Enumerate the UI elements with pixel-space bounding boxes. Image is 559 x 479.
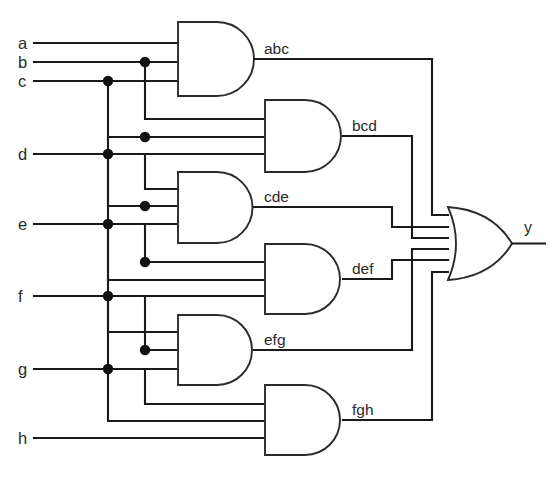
wire-abc-to-or	[432, 59, 448, 215]
and-gate-efg[interactable]: efg	[145, 315, 412, 385]
input-label-d: d	[18, 145, 27, 163]
input-labels: a b c d e f g h	[18, 34, 28, 447]
wire-f-to-efg	[145, 296, 178, 350]
junction-c-145	[140, 132, 150, 142]
and-gate-cde-label: cde	[264, 188, 289, 205]
wire-c-to-cde	[108, 137, 178, 206]
and-gate-abc[interactable]: abc	[145, 22, 432, 96]
input-label-b: b	[18, 53, 27, 71]
input-label-h: h	[18, 429, 27, 447]
and-gate-def[interactable]: def	[265, 244, 448, 314]
junction-g-108	[103, 364, 113, 374]
logic-circuit-diagram: a b c d e f g h	[0, 0, 559, 479]
wire-fgh-to-or	[432, 272, 448, 420]
and-gate-fgh-body[interactable]	[265, 385, 340, 455]
junction-b-145	[140, 57, 150, 67]
junction-c-108	[103, 76, 113, 86]
circuit-canvas: a b c d e f g h	[0, 0, 559, 479]
and-gate-abc-label: abc	[264, 40, 289, 57]
or-gate-body[interactable]	[448, 207, 512, 280]
and-gate-fgh[interactable]: fgh	[265, 385, 432, 455]
wire-e-to-efg	[108, 224, 178, 332]
and-gate-bcd[interactable]: bcd	[265, 100, 412, 172]
wire-d-to-cde	[145, 154, 178, 189]
and-gate-bcd-body[interactable]	[265, 100, 341, 172]
input-label-e: e	[18, 215, 27, 233]
or-gate-feed-wires	[412, 59, 448, 420]
junction-g-145	[140, 345, 150, 355]
input-label-f: f	[18, 287, 23, 305]
junction-f-108	[103, 291, 113, 301]
and-gate-def-body[interactable]	[265, 244, 340, 314]
footer-note	[0, 463, 559, 479]
junction-f-145	[140, 257, 150, 267]
input-label-g: g	[18, 360, 27, 378]
output-label-y: y	[524, 219, 532, 236]
and-gate-fgh-label: fgh	[352, 401, 374, 418]
junction-e-145	[140, 201, 150, 211]
input-label-c: c	[18, 72, 26, 90]
and-gate-efg-label: efg	[264, 331, 286, 348]
and-gate-abc-body[interactable]	[178, 22, 254, 96]
wire-bcd-to-or	[412, 136, 448, 238]
and-gate-efg-body[interactable]	[178, 315, 252, 385]
input-label-a: a	[18, 34, 28, 52]
or-gate[interactable]: y	[448, 207, 545, 280]
and-gate-cde-body[interactable]	[178, 172, 253, 243]
and-gate-cde[interactable]: cde	[145, 172, 448, 243]
wire-cde-out	[254, 207, 448, 227]
junction-e-108	[103, 219, 113, 229]
and-gate-bcd-label: bcd	[352, 117, 377, 134]
wire-efg-to-or	[412, 249, 448, 350]
junction-d-108	[103, 149, 113, 159]
junction-dots	[103, 57, 150, 374]
and-gate-def-label: def	[352, 260, 374, 277]
